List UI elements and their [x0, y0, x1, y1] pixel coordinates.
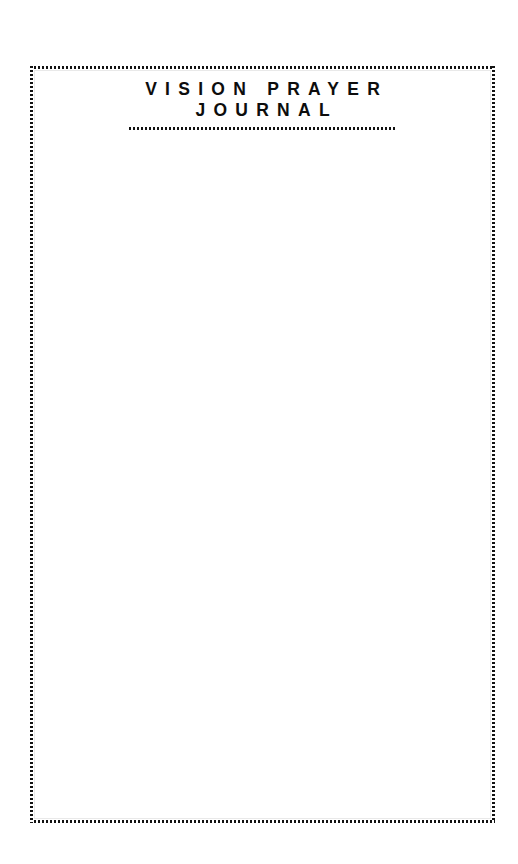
page-title-line-2: JOURNAL: [49, 99, 477, 120]
border-edge-top: [30, 66, 495, 69]
page-title-line-1: VISION PRAYER: [49, 78, 477, 99]
journal-page: VISION PRAYER JOURNAL: [0, 0, 518, 864]
border-edge-bottom: [30, 820, 495, 823]
border-edge-right: [492, 66, 495, 823]
border-edge-left: [30, 66, 33, 823]
masthead: VISION PRAYER JOURNAL: [30, 78, 495, 130]
page-border-frame: VISION PRAYER JOURNAL: [30, 66, 495, 823]
journal-writing-area[interactable]: [38, 128, 487, 815]
